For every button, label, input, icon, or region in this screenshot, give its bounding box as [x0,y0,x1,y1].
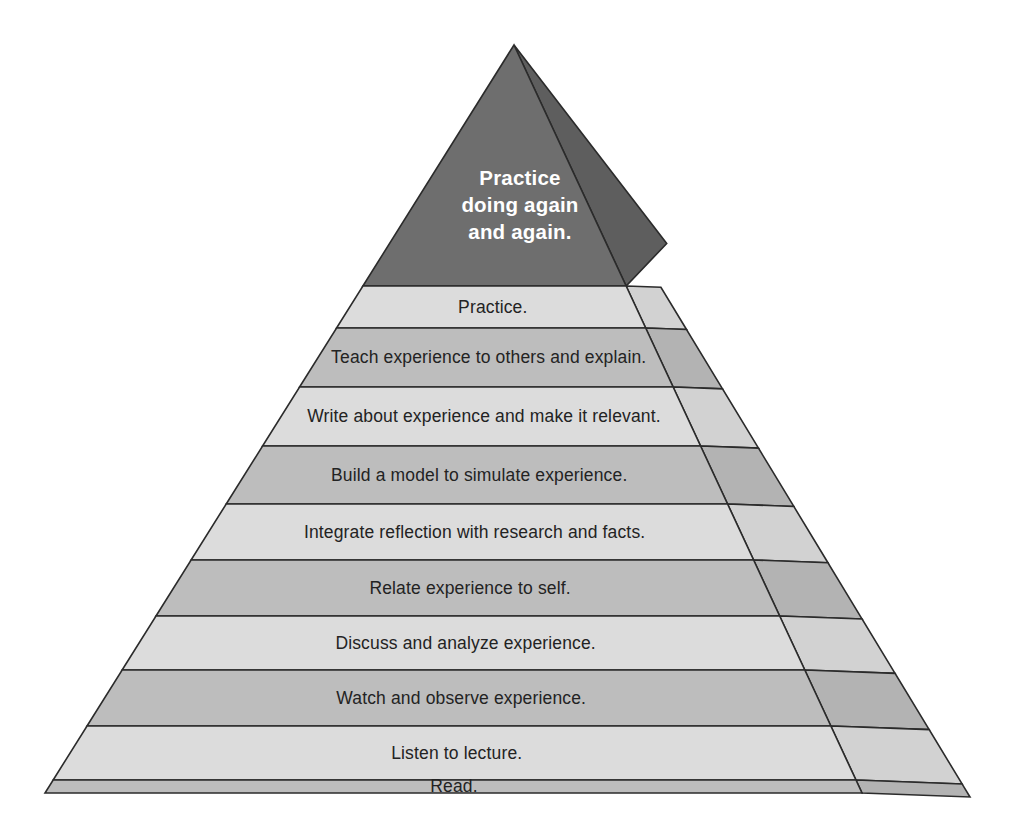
band-label: Read. [430,776,477,796]
band-label: Integrate reflection with research and f… [304,522,645,542]
pyramid-canvas: Practicedoing againand again.Practice.Te… [0,0,1031,836]
band-label: Relate experience to self. [369,578,570,598]
band-label: Listen to lecture. [391,743,522,763]
apex-label-line: Practice [479,166,560,189]
band-label: Discuss and analyze experience. [335,633,596,653]
band-label: Practice. [458,297,527,317]
band-label: Write about experience and make it relev… [307,406,661,426]
learning-pyramid-diagram: Practicedoing againand again.Practice.Te… [0,0,1031,836]
band-label: Teach experience to others and explain. [331,347,646,367]
apex-label-line: and again. [468,220,571,243]
band-label: Watch and observe experience. [336,688,586,708]
apex-label-line: doing again [461,193,578,216]
band-label: Build a model to simulate experience. [331,465,627,485]
